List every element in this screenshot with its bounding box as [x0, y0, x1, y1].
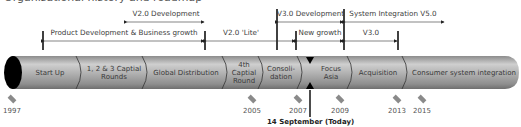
milestone-year: 1997	[0, 107, 27, 115]
today-label: 14 September (Today)	[267, 118, 354, 126]
segment-start-up: Start Up	[22, 56, 78, 89]
range-label-v2-development: V2.0 Development	[127, 9, 205, 18]
milestone-year: 2009	[325, 107, 355, 115]
range-label-v2-lite: V2.0 'Lite'	[205, 28, 277, 37]
segment-consolidation: Consoli-dation	[264, 56, 298, 89]
segment-focus-asia: Focus Asia	[313, 56, 349, 89]
range-label-v3-development: V3.0 Development	[277, 9, 344, 18]
range-label-system-integration: System Integration V5.0	[344, 9, 442, 18]
milestone-year: 2015	[407, 107, 437, 115]
segment-acquisition: Acquisition	[353, 56, 403, 89]
segment-global-distribution: Global Distribution	[148, 56, 224, 89]
segment-consumer-system-integration: Consumer system integration	[410, 56, 518, 89]
milestone-year: 2005	[237, 107, 267, 115]
range-label-product-development: Product Development & Business growth	[43, 28, 205, 37]
segment-4th-capital-round: 4th Captial Round	[228, 56, 260, 89]
segment-capital-rounds: 1, 2 & 3 Captial Rounds	[84, 56, 144, 89]
range-label-v3: V3.0	[344, 28, 398, 37]
milestone-year: 2007	[283, 107, 313, 115]
range-label-new-growth: New growth	[296, 28, 344, 37]
